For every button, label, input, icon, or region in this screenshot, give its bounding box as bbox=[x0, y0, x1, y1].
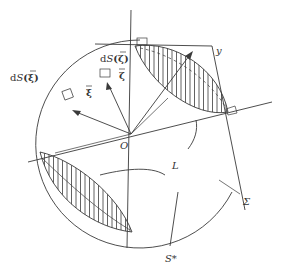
arrow-xi bbox=[72, 110, 131, 134]
label-ds-zeta: dS(ζ) bbox=[100, 53, 129, 64]
arc-L bbox=[100, 169, 165, 175]
label-s-star: S* bbox=[165, 253, 177, 264]
label-xi: ξ bbox=[86, 87, 92, 98]
right-angle-marker-top bbox=[137, 38, 147, 45]
right-slant-line bbox=[212, 46, 245, 210]
s-star-line bbox=[170, 192, 178, 246]
label-zeta: ζ bbox=[119, 70, 125, 81]
tangent-axis-line bbox=[28, 102, 272, 162]
lower-shaded-region bbox=[40, 145, 132, 240]
upper-shaded-region bbox=[135, 35, 228, 120]
sigma-pointer bbox=[219, 180, 240, 194]
arrow-zeta bbox=[106, 82, 131, 134]
diagram-canvas: O dS(ξ) dS(ζ) ξ ζ y L Σ S* bbox=[0, 0, 282, 273]
ds-xi-arg: (ξ) bbox=[23, 72, 38, 83]
arc-L-upper bbox=[188, 120, 197, 149]
label-origin: O bbox=[120, 140, 128, 151]
ds-zeta-arg: (ζ) bbox=[113, 53, 128, 64]
sphere-circle bbox=[36, 40, 232, 248]
arrow-y bbox=[131, 51, 193, 134]
label-L: L bbox=[171, 160, 179, 171]
surface-element-xi bbox=[62, 89, 74, 101]
surface-element-zeta bbox=[100, 69, 110, 77]
label-sigma: Σ bbox=[242, 196, 251, 207]
label-y: y bbox=[215, 45, 222, 56]
label-ds-xi: dS(ξ) bbox=[10, 72, 39, 83]
